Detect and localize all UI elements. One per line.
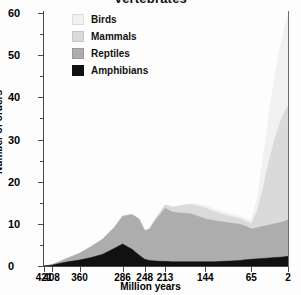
legend-item-amphibians: Amphibians [72, 63, 148, 78]
y-tick-label: 10 [8, 218, 291, 230]
legend-swatch-icon [72, 48, 84, 59]
x-tick-label: 65 [246, 272, 257, 283]
y-tick [40, 245, 44, 246]
chart-title: Vertebrates [0, 0, 301, 6]
y-tick-label: 50 [8, 49, 291, 61]
x-tick-label: 286 [114, 272, 131, 283]
y-tick-label: 40 [8, 91, 291, 103]
y-tick [40, 34, 44, 35]
y-tick [40, 161, 44, 162]
y-tick [40, 76, 44, 77]
x-tick-label: 213 [157, 272, 174, 283]
legend-swatch-icon [72, 14, 84, 25]
x-tick-label: 144 [197, 272, 214, 283]
x-tick-label: 2 [285, 272, 291, 283]
chart-legend: BirdsMammalsReptilesAmphibians [72, 12, 148, 80]
legend-label: Amphibians [91, 65, 148, 76]
chart-figure: Vertebrates Number of orders Million yea… [0, 0, 301, 295]
x-tick-label: 408 [43, 272, 60, 283]
legend-label: Mammals [91, 31, 137, 42]
y-axis-title: Number of orders [0, 90, 4, 174]
x-tick-label: 248 [136, 272, 153, 283]
legend-label: Birds [91, 14, 117, 25]
y-tick-label: 30 [8, 134, 291, 146]
legend-item-reptiles: Reptiles [72, 46, 148, 61]
legend-item-mammals: Mammals [72, 29, 148, 44]
legend-label: Reptiles [91, 48, 130, 59]
y-tick-label: 20 [8, 176, 291, 188]
legend-item-birds: Birds [72, 12, 148, 27]
legend-swatch-icon [72, 31, 84, 42]
x-tick-label: 360 [71, 272, 88, 283]
y-tick-label: 0 [8, 260, 291, 272]
y-tick [40, 118, 44, 119]
y-tick-label: 60 [8, 7, 291, 19]
y-tick [40, 203, 44, 204]
legend-swatch-icon [72, 65, 84, 76]
